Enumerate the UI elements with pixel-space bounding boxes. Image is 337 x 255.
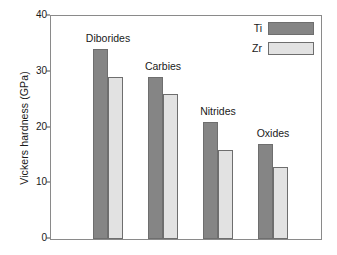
y-tick-mark-0 — [46, 238, 50, 239]
y-tick-label-0: 0 — [27, 233, 47, 243]
bar-oxides-zr — [273, 167, 288, 239]
bar-oxides-ti — [258, 144, 273, 239]
plot-area: DiboridesCarbiesNitridesOxides TiZr — [50, 15, 322, 240]
y-tick-mark-20 — [46, 126, 50, 127]
chart-figure: Vickers hardness (GPa) 010203040 Diborid… — [0, 0, 337, 255]
category-label-carbies: Carbies — [145, 60, 181, 72]
bar-carbies-zr — [163, 94, 178, 239]
y-tick-label-10: 10 — [27, 177, 47, 187]
y-tick-mark-40 — [46, 15, 50, 16]
legend-swatch-zr — [268, 42, 314, 55]
category-label-oxides: Oxides — [257, 127, 290, 139]
legend-swatch-ti — [268, 22, 314, 35]
chart-legend: TiZr — [252, 22, 314, 55]
y-axis-tick-labels: 010203040 — [23, 0, 47, 255]
bar-carbies-ti — [148, 77, 163, 239]
y-tick-mark-30 — [46, 70, 50, 71]
bar-diborides-zr — [108, 77, 123, 239]
legend-item-ti: Ti — [252, 22, 314, 35]
legend-label-ti: Ti — [254, 23, 262, 34]
legend-item-zr: Zr — [252, 42, 314, 55]
y-tick-label-30: 30 — [27, 66, 47, 76]
y-tick-label-40: 40 — [27, 10, 47, 20]
bar-nitrides-ti — [203, 122, 218, 239]
category-label-diborides: Diborides — [86, 32, 130, 44]
category-label-nitrides: Nitrides — [200, 105, 236, 117]
bar-nitrides-zr — [218, 150, 233, 239]
bar-diborides-ti — [93, 49, 108, 239]
y-tick-mark-10 — [46, 182, 50, 183]
y-tick-label-20: 20 — [27, 122, 47, 132]
legend-label-zr: Zr — [252, 43, 262, 54]
